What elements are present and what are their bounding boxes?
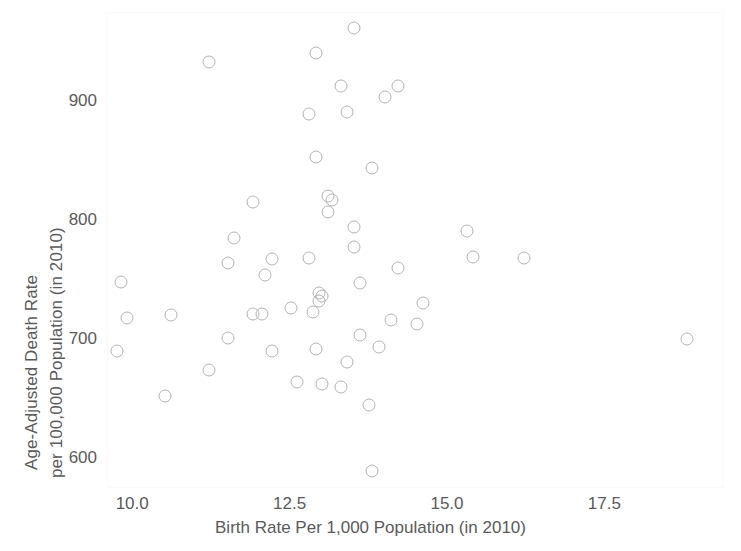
data-point bbox=[316, 378, 329, 391]
data-point bbox=[111, 344, 124, 357]
data-point bbox=[158, 390, 171, 403]
data-point bbox=[259, 268, 272, 281]
data-point bbox=[347, 241, 360, 254]
data-point bbox=[303, 108, 316, 121]
scatter-chart: Age-Adjusted Death Rate per 100,000 Popu… bbox=[0, 0, 741, 551]
data-point bbox=[467, 250, 480, 263]
y-tick-label: 600 bbox=[0, 448, 97, 468]
data-point bbox=[379, 91, 392, 104]
data-point bbox=[120, 311, 133, 324]
data-point bbox=[309, 47, 322, 60]
data-point bbox=[284, 302, 297, 315]
data-point bbox=[391, 261, 404, 274]
data-point bbox=[309, 342, 322, 355]
plot-panel bbox=[107, 12, 724, 488]
data-point bbox=[353, 277, 366, 290]
y-tick-label: 700 bbox=[0, 329, 97, 349]
x-tick-label: 15.0 bbox=[430, 494, 463, 514]
y-tick-label: 800 bbox=[0, 210, 97, 230]
data-point bbox=[347, 22, 360, 35]
data-point bbox=[202, 55, 215, 68]
x-tick-label: 10.0 bbox=[116, 494, 149, 514]
data-point bbox=[164, 309, 177, 322]
data-point bbox=[227, 231, 240, 244]
x-tick-label: 17.5 bbox=[588, 494, 621, 514]
data-point bbox=[681, 333, 694, 346]
data-point bbox=[372, 341, 385, 354]
data-point bbox=[341, 355, 354, 368]
data-point bbox=[517, 252, 530, 265]
y-axis-label-line1: Age-Adjusted Death Rate bbox=[22, 275, 42, 470]
data-point bbox=[410, 317, 423, 330]
data-point bbox=[341, 105, 354, 118]
y-axis-label-line2: per 100,000 Population (in 2010) bbox=[47, 227, 67, 478]
data-point bbox=[366, 161, 379, 174]
data-point bbox=[347, 221, 360, 234]
data-point bbox=[303, 252, 316, 265]
data-point bbox=[460, 224, 473, 237]
data-point-layer bbox=[108, 13, 725, 489]
data-point bbox=[309, 150, 322, 163]
data-point bbox=[265, 253, 278, 266]
data-point bbox=[290, 375, 303, 388]
y-tick-label: 900 bbox=[0, 91, 97, 111]
x-tick-label: 12.5 bbox=[273, 494, 306, 514]
data-point bbox=[366, 465, 379, 478]
data-point bbox=[202, 364, 215, 377]
data-point bbox=[334, 380, 347, 393]
data-point bbox=[385, 314, 398, 327]
data-point bbox=[265, 344, 278, 357]
data-point bbox=[363, 398, 376, 411]
data-point bbox=[221, 331, 234, 344]
data-point bbox=[416, 297, 429, 310]
data-point bbox=[221, 256, 234, 269]
data-point bbox=[353, 329, 366, 342]
data-point bbox=[391, 79, 404, 92]
data-point bbox=[306, 305, 319, 318]
data-point bbox=[322, 205, 335, 218]
data-point bbox=[256, 308, 269, 321]
data-point bbox=[246, 196, 259, 209]
x-axis-label: Birth Rate Per 1,000 Population (in 2010… bbox=[0, 518, 741, 538]
data-point bbox=[114, 275, 127, 288]
data-point bbox=[334, 79, 347, 92]
